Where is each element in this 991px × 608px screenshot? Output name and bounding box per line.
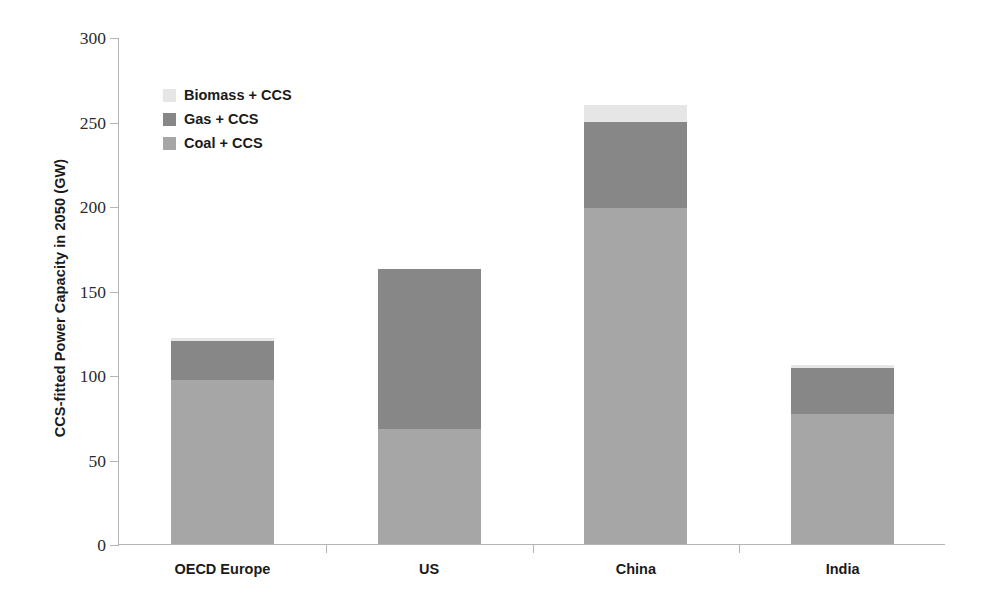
bar-segment-gas-ccs	[378, 269, 481, 430]
y-axis-title: CCS-fitted Power Capacity in 2050 (GW)	[52, 48, 68, 548]
x-axis-label-us: US	[419, 561, 439, 577]
y-axis-tick-label: 300	[80, 28, 106, 49]
x-axis-tick	[326, 544, 327, 553]
bar-oecd-europe	[171, 338, 274, 544]
legend-item-label: Coal + CCS	[184, 136, 263, 151]
x-axis-tick	[533, 544, 534, 553]
y-axis-tick	[110, 461, 119, 462]
bar-us	[378, 269, 481, 544]
legend-swatch-icon	[163, 137, 176, 150]
y-axis-tick	[110, 292, 119, 293]
x-axis-label-india: India	[826, 561, 860, 577]
stacked-bar-chart: CCS-fitted Power Capacity in 2050 (GW) 0…	[0, 0, 991, 608]
bar-segment-biomass-ccs	[584, 105, 687, 122]
bar-segment-biomass-ccs	[791, 365, 894, 368]
x-axis-label-china: China	[616, 561, 656, 577]
bar-china	[584, 105, 687, 544]
legend-swatch-icon	[163, 113, 176, 126]
y-axis-tick	[110, 38, 119, 39]
bar-segment-gas-ccs	[584, 122, 687, 208]
bar-segment-gas-ccs	[791, 368, 894, 414]
legend-swatch-icon	[163, 89, 176, 102]
y-axis-tick	[110, 545, 119, 546]
y-axis-tick	[110, 123, 119, 124]
legend-item: Coal + CCS	[163, 134, 292, 153]
chart-legend: Biomass + CCSGas + CCSCoal + CCS	[163, 86, 292, 153]
y-axis-tick-label: 250	[80, 112, 106, 133]
y-axis-tick-label: 150	[80, 281, 106, 302]
legend-item-label: Biomass + CCS	[184, 88, 292, 103]
bar-segment-coal-ccs	[378, 429, 481, 544]
bar-segment-coal-ccs	[171, 380, 274, 544]
y-axis-tick	[110, 207, 119, 208]
bar-segment-coal-ccs	[791, 414, 894, 544]
bar-segment-biomass-ccs	[171, 338, 274, 341]
y-axis-tick-label: 200	[80, 197, 106, 218]
y-axis-tick	[110, 376, 119, 377]
bar-segment-coal-ccs	[584, 208, 687, 544]
y-axis-tick-label: 100	[80, 366, 106, 387]
y-axis-tick-label: 0	[97, 535, 106, 556]
x-axis-label-oecd-europe: OECD Europe	[174, 561, 270, 577]
legend-item-label: Gas + CCS	[184, 112, 259, 127]
bar-segment-gas-ccs	[171, 341, 274, 380]
bar-india	[791, 365, 894, 544]
y-axis-tick-label: 50	[89, 450, 107, 471]
legend-item: Biomass + CCS	[163, 86, 292, 105]
legend-item: Gas + CCS	[163, 110, 292, 129]
x-axis-tick	[739, 544, 740, 553]
